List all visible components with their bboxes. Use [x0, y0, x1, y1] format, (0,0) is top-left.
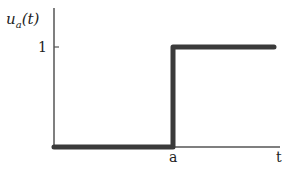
x-tick-label-a: a — [169, 149, 177, 165]
step-series-line — [54, 47, 274, 147]
y-tick-label: 1 — [38, 39, 47, 55]
x-axis-label: t — [276, 149, 282, 165]
y-axis-label: ua(t) — [6, 10, 40, 30]
step-function-chart: ua(t) 1 a t — [0, 0, 294, 171]
